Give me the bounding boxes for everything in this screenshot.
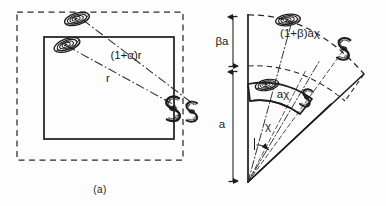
panel-a-radius-line-outer xyxy=(83,20,196,106)
radial-outer-dimension-label: βa xyxy=(215,35,229,47)
radial-dimension-beta-a xyxy=(229,17,238,67)
panel-b-angle-chi xyxy=(255,138,269,150)
panel-a-caption: (a) xyxy=(93,184,106,195)
panel-b-outer-dashed-closing-edge xyxy=(345,74,364,101)
radial-inner-dimension-label: a xyxy=(219,118,226,130)
panel-b-outer-arc-label: (1+β)aχ xyxy=(280,27,320,39)
panel-b-inner-wedge-label: aχ xyxy=(277,88,289,100)
panel-a-inner-radius-label: r xyxy=(106,72,110,84)
figure-canvas: (1+α)r r (a) βa a xyxy=(0,0,386,206)
galaxy-edge-on-inner xyxy=(164,96,182,122)
panel-b-fan-rays xyxy=(248,21,364,182)
radial-dimension-a xyxy=(229,72,238,182)
figure-container: (1+α)r r (a) βa a xyxy=(0,0,386,206)
panel-a-outer-dashed-boundary xyxy=(17,12,183,160)
galaxy-face-on-outer xyxy=(63,10,91,28)
panel-a: (1+α)r r (a) xyxy=(17,10,199,195)
panel-a-outer-radius-label: (1+α)r xyxy=(110,49,141,61)
galaxy-edge-on-wedge xyxy=(298,87,316,108)
panel-b: βa a xyxy=(215,13,364,182)
panel-b-angle-label: χ xyxy=(265,120,271,132)
galaxy-face-on-arc xyxy=(275,13,301,28)
galaxy-edge-on-outer xyxy=(184,101,199,122)
panel-b-outer-dashed-arc xyxy=(248,15,364,74)
galaxy-edge-on-arc xyxy=(334,37,353,61)
